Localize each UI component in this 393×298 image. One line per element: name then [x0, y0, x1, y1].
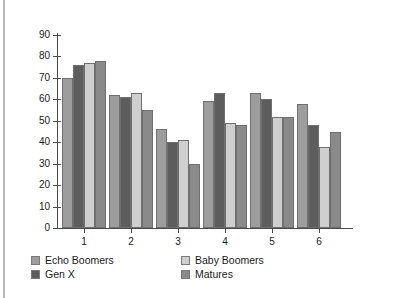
- bar-chart-figure: 0102030405060708090 123456 Echo BoomersG…: [0, 0, 393, 298]
- bar: [142, 110, 153, 228]
- bar: [178, 140, 189, 228]
- x-axis-tick: [272, 228, 273, 233]
- x-axis-tick-label: 5: [262, 236, 282, 247]
- bar: [214, 93, 225, 228]
- bar: [236, 125, 247, 228]
- bar: [62, 78, 73, 228]
- y-axis-tick: [53, 207, 61, 208]
- bar: [283, 117, 294, 229]
- bar: [131, 93, 142, 228]
- bar: [73, 65, 84, 228]
- y-axis-tick: [53, 142, 61, 143]
- y-axis-tick: [53, 35, 61, 36]
- legend-swatch-icon: [181, 270, 190, 279]
- chart-legend: Echo BoomersGen XBaby BoomersMatures: [31, 255, 331, 291]
- x-axis-tick-label: 3: [168, 236, 188, 247]
- legend-item[interactable]: Echo Boomers: [31, 255, 114, 266]
- y-axis-tick: [53, 121, 61, 122]
- legend-item[interactable]: Matures: [181, 269, 233, 280]
- bar: [156, 129, 167, 228]
- y-axis-tick-label: 90: [22, 30, 50, 40]
- x-axis-tick-label: 4: [215, 236, 235, 247]
- y-axis-tick: [53, 164, 61, 165]
- legend-item-label: Baby Boomers: [195, 255, 264, 266]
- y-axis-tick: [53, 185, 61, 186]
- y-axis-tick-label: 70: [22, 73, 50, 83]
- bar: [272, 117, 283, 229]
- x-axis-tick: [131, 228, 132, 233]
- bar: [203, 101, 214, 228]
- legend-item[interactable]: Baby Boomers: [181, 255, 264, 266]
- legend-swatch-icon: [181, 256, 190, 265]
- bar: [189, 164, 200, 228]
- x-axis-tick-label: 6: [309, 236, 329, 247]
- x-axis-tick: [178, 228, 179, 233]
- y-axis-tick-label: 50: [22, 116, 50, 126]
- legend-item-label: Gen X: [45, 269, 75, 280]
- bar: [330, 132, 341, 229]
- bar: [84, 63, 95, 228]
- y-axis-line: [57, 33, 58, 229]
- y-axis-tick-label: 10: [22, 202, 50, 212]
- y-axis-tick-label: 40: [22, 137, 50, 147]
- bar: [261, 99, 272, 228]
- bar: [225, 123, 236, 228]
- bar: [167, 142, 178, 228]
- y-axis-tick: [53, 228, 61, 229]
- bar: [120, 97, 131, 228]
- y-axis-tick-label: 20: [22, 180, 50, 190]
- x-axis-tick-label: 2: [121, 236, 141, 247]
- bar: [319, 147, 330, 228]
- x-axis-line: [57, 228, 353, 229]
- legend-swatch-icon: [31, 270, 40, 279]
- bar: [95, 61, 106, 228]
- x-axis-tick: [319, 228, 320, 233]
- y-axis-tick: [53, 56, 61, 57]
- bar: [297, 104, 308, 228]
- y-axis-tick: [53, 99, 61, 100]
- x-axis-tick: [225, 228, 226, 233]
- y-axis-tick-label: 60: [22, 94, 50, 104]
- bar: [109, 95, 120, 228]
- legend-swatch-icon: [31, 256, 40, 265]
- y-axis-tick-label: 0: [22, 223, 50, 233]
- y-axis-tick-label: 80: [22, 51, 50, 61]
- y-axis-tick-label: 30: [22, 159, 50, 169]
- bar: [250, 93, 261, 228]
- legend-item[interactable]: Gen X: [31, 269, 75, 280]
- legend-item-label: Echo Boomers: [45, 255, 114, 266]
- legend-item-label: Matures: [195, 269, 233, 280]
- bar: [308, 125, 319, 228]
- x-axis-tick: [84, 228, 85, 233]
- x-axis-tick-label: 1: [74, 236, 94, 247]
- y-axis-tick: [53, 78, 61, 79]
